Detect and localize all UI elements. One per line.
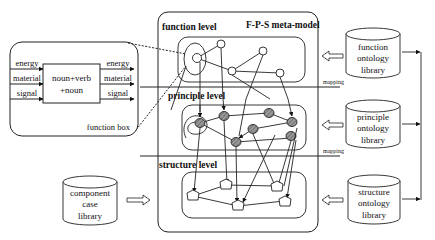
function-box: noun+verb +noun energy material signal e… <box>10 42 138 136</box>
svg-text:component: component <box>70 188 110 198</box>
svg-text:function: function <box>358 42 388 52</box>
function-box-label: function box <box>87 122 131 132</box>
library-link-loop <box>402 52 421 200</box>
output-signal: signal <box>108 88 129 98</box>
svg-text:library: library <box>361 135 385 145</box>
function-graph <box>171 40 288 112</box>
arrow-principle-library <box>322 120 343 130</box>
svg-text:library: library <box>361 65 385 75</box>
output-energy: energy <box>107 58 131 68</box>
input-energy: energy <box>16 58 40 68</box>
svg-text:structure: structure <box>358 187 390 197</box>
arrow-component-library <box>127 195 150 205</box>
svg-text:library: library <box>78 211 102 221</box>
mapping-label-2: mapping <box>323 148 344 154</box>
principle-ontology-library: principle ontology library <box>346 100 400 148</box>
structure-level-label: structure level <box>159 160 217 170</box>
function-core-box <box>43 64 100 103</box>
svg-text:ontology: ontology <box>357 123 390 133</box>
mapping-label-1: mapping <box>323 79 344 85</box>
svg-text:ontology: ontology <box>357 53 390 63</box>
fps-diagram: noun+verb +noun energy material signal e… <box>0 0 435 240</box>
input-signal: signal <box>17 88 38 98</box>
input-material: material <box>13 73 41 83</box>
arrow-function-library <box>322 51 343 61</box>
svg-text:library: library <box>362 210 386 220</box>
core-line1: noun+verb <box>52 73 92 83</box>
structure-graph <box>187 179 291 210</box>
core-line2: +noun <box>60 85 84 95</box>
svg-text:case: case <box>82 199 98 209</box>
svg-text:principle: principle <box>357 112 389 122</box>
svg-text:ontology: ontology <box>358 198 391 208</box>
function-ontology-library: function ontology library <box>346 28 400 78</box>
function-level-label: function level <box>162 22 217 32</box>
meta-model-title: F-P-S meta-model <box>246 20 320 30</box>
structure-ontology-library: structure ontology library <box>348 175 400 224</box>
component-case-library: component case library <box>63 176 117 225</box>
output-material: material <box>104 73 132 83</box>
arrow-structure-library <box>322 195 343 205</box>
